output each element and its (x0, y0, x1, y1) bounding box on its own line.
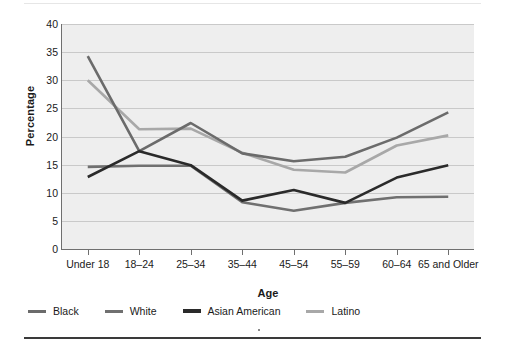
series-line-latino (88, 80, 449, 172)
page-artifact-dot (258, 329, 260, 331)
legend-item-black[interactable]: Black (28, 305, 79, 317)
x-axis-tick-mark (345, 250, 346, 255)
legend-item-white[interactable]: White (105, 305, 157, 317)
x-axis-tick-mark (242, 250, 243, 255)
legend-swatch-icon (28, 310, 46, 313)
bottom-divider-rule (24, 337, 481, 339)
legend-swatch-icon (105, 310, 123, 313)
legend-label: Asian American (208, 305, 281, 317)
legend-item-asian-american[interactable]: Asian American (183, 305, 281, 317)
x-axis-tick-mark (448, 250, 449, 255)
x-axis-tick-mark (397, 250, 398, 255)
x-axis-tick-mark (88, 250, 89, 255)
x-axis-title: Age (62, 287, 474, 299)
x-axis-tick-mark (294, 250, 295, 255)
legend-label: White (130, 305, 157, 317)
legend-swatch-icon (306, 310, 324, 313)
chart-legend: BlackWhiteAsian AmericanLatino (28, 303, 386, 319)
x-axis-tick-mark (139, 250, 140, 255)
legend-swatch-icon (183, 309, 201, 312)
x-axis-tick-mark (191, 250, 192, 255)
series-line-asian-american (88, 151, 449, 203)
line-chart-figure: Percentage 0510152025303540 Under 1818–2… (0, 0, 505, 348)
x-axis-tick-label: 65 and Older (413, 258, 483, 271)
legend-item-latino[interactable]: Latino (306, 305, 360, 317)
series-line-white (88, 166, 449, 211)
legend-label: Latino (331, 305, 360, 317)
legend-label: Black (53, 305, 79, 317)
